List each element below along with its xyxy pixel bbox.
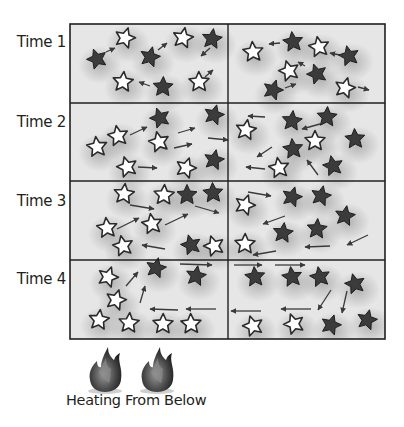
diagram-canvas [0, 0, 404, 427]
caption-heating-from-below: Heating From Below [66, 392, 206, 408]
flame-icon [140, 347, 174, 394]
flame-icon [88, 347, 122, 394]
row-label-time-3: Time 3 [0, 192, 66, 210]
row-label-time-2: Time 2 [0, 113, 66, 131]
row-label-time-4: Time 4 [0, 270, 66, 288]
convection-diagram: Time 1 Time 2 Time 3 Time 4 Heating From… [0, 0, 404, 427]
row-label-time-1: Time 1 [0, 33, 66, 51]
heat-sources [88, 347, 174, 394]
